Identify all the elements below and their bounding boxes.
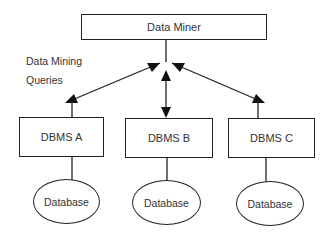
dbms-a-node: DBMS A [19, 117, 104, 157]
database-a-node: Database [33, 179, 100, 224]
dbms-c-node: DBMS C [228, 118, 315, 158]
annotation-line1: Data Mining [26, 55, 82, 67]
annotation-line2: Queries [26, 74, 63, 86]
database-b-node: Database [132, 180, 201, 225]
dbms-b-node: DBMS B [125, 118, 213, 158]
data-miner-node: Data Miner [81, 14, 267, 40]
database-c-node: Database [236, 181, 304, 226]
